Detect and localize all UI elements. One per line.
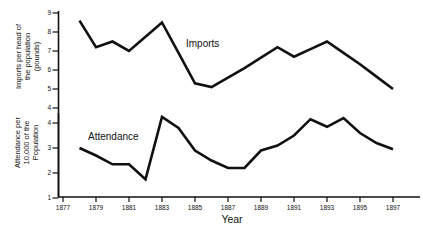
- imports-y-tick-label: 5: [47, 85, 51, 92]
- attendance-y-tick-label: 2: [47, 169, 51, 176]
- x-tick-label: 1881: [122, 204, 137, 211]
- imports-y-tick-label: 9: [47, 9, 51, 16]
- attendance-y-tick-label: 1: [47, 194, 51, 201]
- axis-title-line: 10,000 of the: [22, 95, 31, 190]
- x-tick-label: 1883: [155, 204, 170, 211]
- axis-title-line: Attendance per: [13, 95, 22, 190]
- attendance-y-tick-label: 3: [47, 144, 51, 151]
- x-tick-label: 1877: [56, 204, 71, 211]
- x-tick-label: 1891: [287, 204, 302, 211]
- x-tick-label: 1893: [320, 204, 335, 211]
- imports-y-tick-label: 6: [47, 66, 51, 73]
- x-tick-label: 1879: [89, 204, 104, 211]
- imports-y-tick-label: 8: [47, 28, 51, 35]
- chart-canvas: 9876544321187718791881188318851887188918…: [0, 0, 423, 240]
- imports-y-axis-title: Imports per head of the population (poun…: [14, 14, 41, 99]
- dual-line-chart-figure: 9876544321187718791881188318851887188918…: [0, 0, 423, 240]
- imports-y-tick-label: 7: [47, 47, 51, 54]
- axis-title-line: Population: [31, 95, 40, 190]
- x-tick-label: 1887: [221, 204, 236, 211]
- axis-title-line: the population: [23, 14, 32, 99]
- attendance-y-tick-label: 4: [47, 119, 51, 126]
- x-tick-label: 1889: [254, 204, 269, 211]
- axis-title-line: (pounds): [32, 14, 41, 99]
- attendance-line: [80, 117, 394, 180]
- imports-y-tick-label: 4: [47, 104, 51, 111]
- axis-title-line: Imports per head of: [14, 14, 23, 99]
- x-tick-label: 1895: [353, 204, 368, 211]
- imports-series-label: Imports: [186, 38, 219, 49]
- x-tick-label: 1885: [188, 204, 203, 211]
- attendance-series-label: Attendance: [88, 131, 139, 142]
- x-tick-label: 1897: [386, 204, 401, 211]
- imports-line: [80, 21, 394, 89]
- x-axis-title: Year: [208, 213, 256, 225]
- attendance-y-axis-title: Attendance per 10,000 of the Population: [13, 95, 40, 190]
